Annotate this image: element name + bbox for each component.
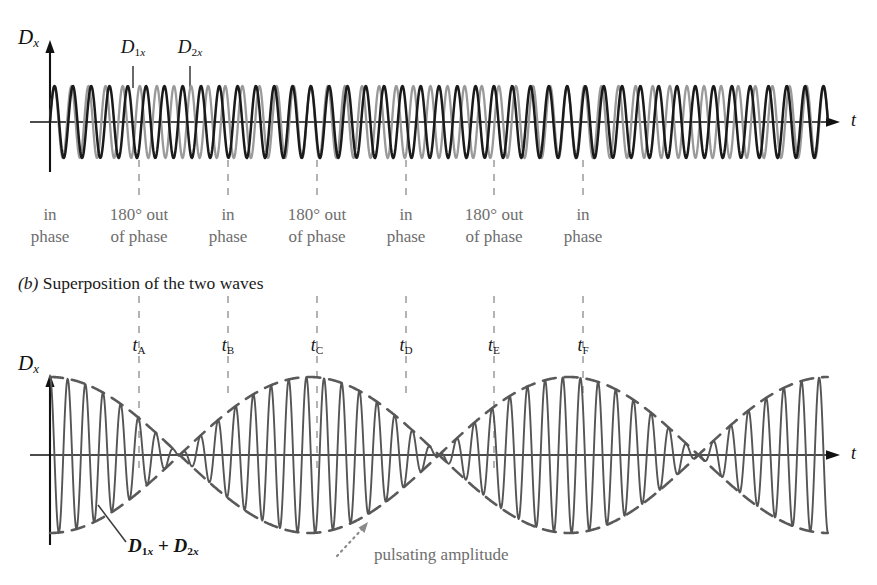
phase-label-1-line1: in — [0, 204, 100, 226]
phase-label-3: in phase — [178, 204, 278, 248]
time-mark-c: tC — [292, 335, 342, 356]
phase-label-7: in phase — [533, 204, 633, 248]
phase-label-2: 180° out of phase — [89, 204, 189, 248]
panel-b-caption: (b) Superposition of the two waves — [18, 274, 263, 294]
panel-a-t-axis-label: t — [851, 110, 856, 130]
phase-label-6: 180° out of phase — [444, 204, 544, 248]
panel-a-guide-lines — [139, 160, 583, 196]
phase-label-6-line1: 180° out — [444, 204, 544, 226]
phase-label-1-line2: phase — [0, 226, 100, 248]
phase-label-7-line2: phase — [533, 226, 633, 248]
phase-label-5-line1: in — [356, 204, 456, 226]
time-mark-d: tD — [381, 335, 431, 356]
wave-d1x-callout: D1x — [107, 36, 159, 59]
phase-label-5-line2: phase — [356, 226, 456, 248]
phase-label-2-line1: 180° out — [89, 204, 189, 226]
superposition-label: D1x + D2x — [128, 535, 199, 558]
pulsating-amplitude-label: pulsating amplitude — [374, 545, 509, 564]
wave-d2x-callout: D2x — [164, 36, 216, 59]
time-mark-e: tE — [469, 335, 519, 356]
panel-b-guide-lines — [139, 296, 583, 470]
phase-label-4-line1: 180° out — [267, 204, 367, 226]
phase-label-5: in phase — [356, 204, 456, 248]
phase-label-3-line2: phase — [178, 226, 278, 248]
phase-label-7-line1: in — [533, 204, 633, 226]
time-mark-f: tF — [558, 335, 608, 356]
panel-b-t-axis-label: t — [851, 443, 856, 463]
panel-b-caption-prefix: (b) — [18, 273, 38, 293]
beats-figure: Dx t D1x D2x in phase 180° out of phase … — [0, 0, 877, 585]
time-mark-b: tB — [203, 335, 253, 356]
phase-label-2-line2: of phase — [89, 226, 189, 248]
panel-b-y-axis-label: Dx — [18, 352, 39, 376]
time-mark-a: tA — [114, 335, 164, 356]
phase-label-6-line2: of phase — [444, 226, 544, 248]
phase-label-1: in phase — [0, 204, 100, 248]
phase-label-4-line2: of phase — [267, 226, 367, 248]
phase-label-3-line1: in — [178, 204, 278, 226]
panel-b-caption-text: Superposition of the two waves — [43, 273, 264, 293]
panel-a-y-axis-label: Dx — [18, 26, 39, 50]
panel-a-callout-leaders — [133, 66, 190, 88]
phase-label-4: 180° out of phase — [267, 204, 367, 248]
